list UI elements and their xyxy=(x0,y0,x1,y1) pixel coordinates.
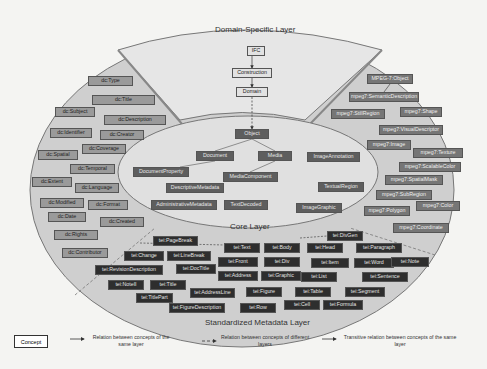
standardized-layer-label: Standardized Metadata Layer xyxy=(205,318,310,327)
concept-node-mpeg: mpeg7:Polygon xyxy=(364,206,410,216)
concept-node-dc: dc:Title xyxy=(92,95,155,105)
concept-node-tei: tei:DocTitle xyxy=(176,264,216,274)
concept-node-tei: tei:Row xyxy=(240,303,276,313)
concept-node-mpeg: mpeg7:Image xyxy=(367,140,411,150)
concept-node-dc: dc:Description xyxy=(104,115,166,125)
concept-node-tei: tei:FigureDescription xyxy=(169,303,225,313)
concept-node-tei: tei:Cell xyxy=(284,300,320,310)
concept-node-tei: tei:Graphic xyxy=(261,271,301,281)
concept-node-core: TextualRegion xyxy=(318,182,364,192)
concept-node-tei: tei:Text xyxy=(224,243,260,253)
legend-different-layers: Relation between concepts of different l… xyxy=(220,334,310,348)
concept-node-tei: tei:RevisionDescription xyxy=(95,265,163,275)
concept-node-tei: tei:Paragraph xyxy=(356,243,402,253)
concept-node-tei: tei:Item xyxy=(311,258,349,268)
concept-node-tei: tei:Note xyxy=(391,257,429,267)
concept-node-tei: tei:Segment xyxy=(345,287,385,297)
concept-node-mpeg: mpeg7:Texture xyxy=(413,148,463,158)
concept-node-core: DescriptiveMetadata xyxy=(166,183,224,193)
concept-node-dc: dc:Date xyxy=(48,212,86,222)
concept-node-tei: tei:Word xyxy=(354,258,394,268)
concept-node-core: TextDecoded xyxy=(224,200,268,210)
concept-node-dc: dc:Language xyxy=(75,183,119,193)
concept-node-tei: tei:Head xyxy=(307,243,343,253)
concept-node-tei: tei:LineBreak xyxy=(167,251,211,261)
concept-node-tei: tei:Title xyxy=(150,280,186,290)
concept-node-tei: tei:Front xyxy=(218,257,258,267)
concept-node-tei: tei:Address xyxy=(218,271,258,281)
layered-ontology-diagram: Domain-Specific Layer Core Layer Standar… xyxy=(0,0,487,369)
concept-node-core: Media xyxy=(258,151,292,161)
concept-node-tei: tei:TitlePart xyxy=(136,293,173,303)
legend-same-layer: Relation between concepts of the same la… xyxy=(86,334,176,348)
concept-node-dc: dc:Identifier xyxy=(50,128,92,138)
concept-node-tei: tei:Body xyxy=(264,243,300,253)
concept-node-dc: dc:Modified xyxy=(40,198,84,208)
legend-concept-box: Concept xyxy=(14,335,48,348)
concept-node-dc: dc:Creator xyxy=(100,130,144,140)
concept-node-domain: IFC xyxy=(247,46,265,56)
concept-node-dc: dc:Extent xyxy=(32,177,72,187)
concept-node-mpeg: mpeg7:Coordinate xyxy=(393,223,449,233)
concept-node-tei: tei:List xyxy=(301,272,337,282)
concept-node-dc: dc:Created xyxy=(100,217,144,227)
concept-node-tei: tei:DivGen xyxy=(327,231,363,241)
concept-node-mpeg: mpeg7:Shape xyxy=(400,107,442,117)
concept-node-mpeg: MPEG-7:Object xyxy=(367,74,413,84)
concept-node-core: Object xyxy=(235,129,269,139)
concept-node-tei: tei:Formula xyxy=(323,300,363,310)
concept-node-tei: tei:Figure xyxy=(246,287,282,297)
concept-node-tei: tei:AddressLine xyxy=(190,288,235,298)
concept-node-tei: tei:Sentence xyxy=(362,272,408,282)
concept-node-tei: tei:Table xyxy=(295,287,331,297)
concept-node-mpeg: mpeg7:ScalableColor xyxy=(399,162,461,172)
concept-node-core: ImageAnnotation xyxy=(307,152,360,162)
concept-node-mpeg: mpeg7:StillRegion xyxy=(331,109,385,119)
concept-node-dc: dc:Subject xyxy=(55,107,95,117)
concept-node-core: ImageGraphic xyxy=(296,203,342,213)
legend-transitive: Transitive relation between concepts of … xyxy=(340,334,460,348)
concept-node-mpeg: mpeg7:SubRegion xyxy=(376,190,432,200)
concept-node-mpeg: mpeg7:Color xyxy=(416,201,460,211)
concept-node-tei: tei:Change xyxy=(124,251,164,261)
domain-layer-label: Domain-Specific Layer xyxy=(215,25,295,34)
concept-node-dc: dc:Rights xyxy=(54,230,98,240)
concept-node-tei: tei:Div xyxy=(264,257,300,267)
concept-node-dc: dc:Temporal xyxy=(70,164,115,174)
concept-node-mpeg: mpeg7:VisualDescriptor xyxy=(379,125,443,135)
concept-node-core: MediaComponent xyxy=(223,172,278,182)
concept-node-mpeg: mpeg7:SpatialMask xyxy=(385,175,443,185)
concept-node-domain: Domain xyxy=(236,87,268,97)
concept-node-core: DocumentProperty xyxy=(133,167,189,177)
concept-node-core: Document xyxy=(196,151,234,161)
concept-node-domain: Construction xyxy=(232,68,272,78)
concept-node-dc: dc:Coverage xyxy=(82,144,126,154)
concept-node-dc: dc:Spatial xyxy=(38,150,78,160)
concept-node-dc: dc:Type xyxy=(88,76,133,86)
concept-node-dc: dc:Contributor xyxy=(62,248,108,258)
concept-node-tei: tei:NoteII xyxy=(108,280,144,290)
concept-node-dc: dc:Format xyxy=(88,200,128,210)
concept-node-tei: tei:PageBreak xyxy=(153,236,198,246)
concept-node-core: AdministrativeMetadata xyxy=(151,200,217,210)
core-layer-label: Core Layer xyxy=(230,222,270,231)
concept-node-mpeg: mpeg7:SemanticDescription xyxy=(349,92,419,102)
